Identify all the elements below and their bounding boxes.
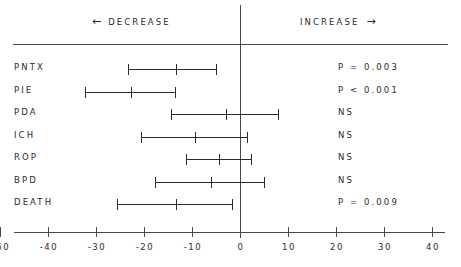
x-axis-tick-mark: [336, 227, 337, 237]
x-axis-tick-mark: [96, 227, 97, 237]
x-axis-tick-mark: [288, 227, 289, 237]
x-axis-tick-label: -10: [184, 242, 203, 252]
x-axis-tick-label: 40: [426, 242, 440, 252]
x-axis-tick-label: 20: [330, 242, 344, 252]
x-axis-tick-label: -20: [136, 242, 155, 252]
x-axis-tick-mark: [144, 227, 145, 237]
x-axis-tick-label: 30: [378, 242, 392, 252]
x-axis-tick-label: 0: [237, 242, 244, 252]
x-axis-tick-label: -40: [40, 242, 59, 252]
x-axis-tick-mark: [240, 227, 241, 237]
x-axis-tick-label: -50: [0, 242, 10, 252]
x-axis-tick-mark: [384, 227, 385, 237]
x-axis-tick-mark: [48, 227, 49, 237]
forest-plot-figure: ← DECREASE INCREASE → PNTXP = 0.003PIEP …: [0, 0, 461, 267]
x-axis-tick-label: 10: [282, 242, 296, 252]
x-axis-ticks: -50-40-30-20-1001020304050: [0, 0, 461, 267]
x-axis-tick-label: -30: [88, 242, 107, 252]
x-axis-tick-mark: [0, 227, 1, 237]
x-axis-tick-mark: [192, 227, 193, 237]
x-axis-tick-mark: [432, 227, 433, 237]
